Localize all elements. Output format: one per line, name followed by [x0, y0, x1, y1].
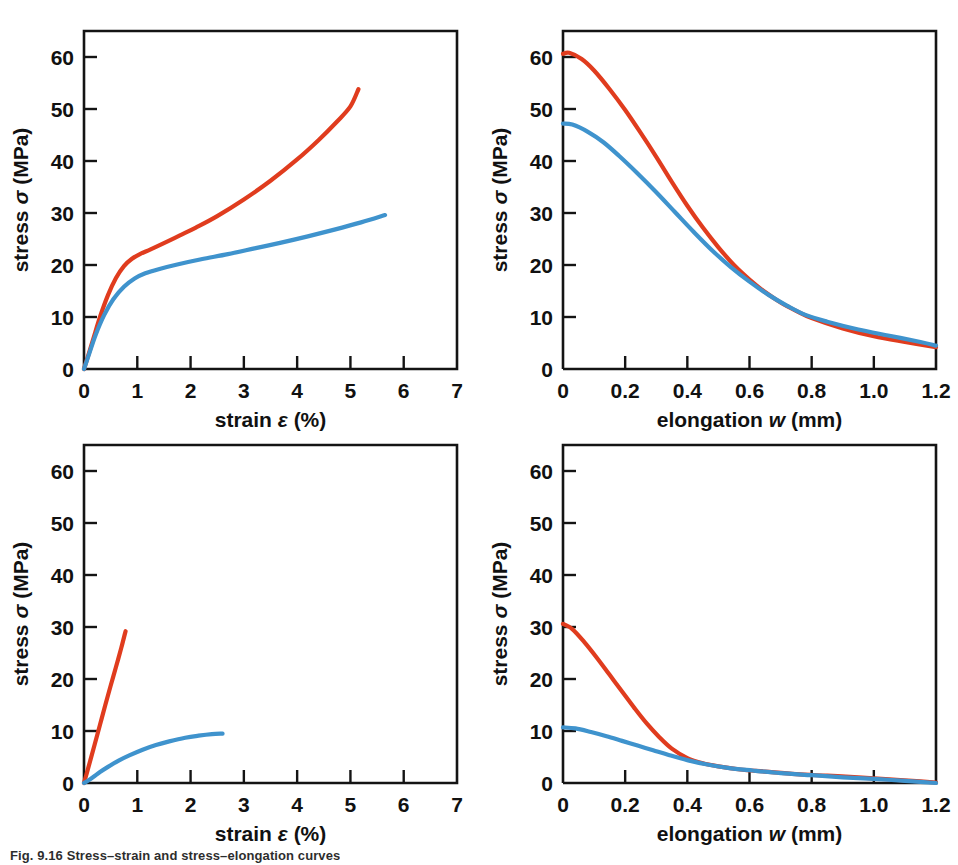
y-tick-label: 60: [530, 46, 553, 69]
x-tick-label: 0.2: [611, 793, 640, 816]
y-axis-label: stress σ (MPa): [488, 542, 511, 687]
x-tick-label: 1: [131, 793, 143, 816]
y-tick-label: 60: [530, 460, 553, 483]
y-tick-label: 20: [530, 254, 553, 277]
y-tick-label: 30: [530, 616, 553, 639]
x-tick-label: 5: [345, 793, 357, 816]
x-tick-label: 0: [78, 379, 90, 402]
y-tick-label: 10: [51, 720, 74, 743]
y-tick-label: 50: [530, 98, 553, 121]
y-tick-label: 10: [530, 720, 553, 743]
plot-top-right: 010203040506000.20.40.60.81.01.2elongati…: [479, 0, 958, 432]
y-tick-label: 0: [541, 358, 553, 381]
y-tick-label: 30: [51, 202, 74, 225]
x-tick-label: 0: [557, 379, 569, 402]
y-tick-label: 50: [530, 512, 553, 535]
series-curve-blue: [84, 215, 385, 369]
x-axis-label: elongation w (mm): [657, 822, 843, 845]
series-curve-red: [563, 624, 936, 783]
y-tick-label: 0: [62, 358, 74, 381]
plot-bottom-right: 010203040506000.20.40.60.81.01.2elongati…: [479, 414, 958, 846]
x-tick-label: 7: [451, 379, 463, 402]
y-tick-label: 10: [51, 306, 74, 329]
y-tick-label: 20: [530, 668, 553, 691]
plot-bottom-left: 010203040506001234567strain ε (%)stress …: [0, 414, 479, 846]
x-tick-label: 3: [238, 793, 250, 816]
x-tick-label: 0.6: [735, 379, 764, 402]
plot-frame: [84, 31, 457, 369]
plot-top-left: 010203040506001234567strain ε (%)stress …: [0, 0, 479, 432]
x-tick-label: 0.8: [797, 379, 827, 402]
x-tick-label: 3: [238, 379, 250, 402]
x-tick-label: 2: [185, 793, 197, 816]
x-tick-label: 1: [131, 379, 143, 402]
x-tick-label: 1.2: [921, 379, 950, 402]
x-tick-label: 7: [451, 793, 463, 816]
series-curve-red: [84, 89, 358, 369]
x-tick-label: 1.2: [921, 793, 950, 816]
x-tick-label: 1.0: [859, 793, 888, 816]
x-tick-label: 0: [78, 793, 90, 816]
y-tick-label: 50: [51, 98, 74, 121]
y-tick-label: 10: [530, 306, 553, 329]
panel-bottom-left: 010203040506001234567strain ε (%)stress …: [0, 414, 479, 846]
y-tick-label: 20: [51, 668, 74, 691]
series-curve-red: [563, 53, 936, 348]
x-tick-label: 0.4: [673, 793, 703, 816]
panel-bottom-right: 010203040506000.20.40.60.81.01.2elongati…: [479, 414, 958, 846]
y-tick-label: 40: [530, 150, 553, 173]
y-tick-label: 60: [51, 460, 74, 483]
panel-top-right: 010203040506000.20.40.60.81.01.2elongati…: [479, 0, 958, 432]
y-axis-label: stress σ (MPa): [488, 128, 511, 273]
series-curve-blue: [84, 734, 223, 783]
panel-top-left: 010203040506001234567strain ε (%)stress …: [0, 0, 479, 432]
y-tick-label: 0: [541, 772, 553, 795]
y-axis-label: stress σ (MPa): [9, 128, 32, 273]
y-tick-label: 30: [51, 616, 74, 639]
y-tick-label: 20: [51, 254, 74, 277]
y-tick-label: 30: [530, 202, 553, 225]
y-tick-label: 40: [51, 564, 74, 587]
y-tick-label: 40: [530, 564, 553, 587]
y-tick-label: 40: [51, 150, 74, 173]
x-tick-label: 6: [398, 793, 410, 816]
x-tick-label: 5: [345, 379, 357, 402]
x-tick-label: 0.4: [673, 379, 703, 402]
plot-frame: [84, 445, 457, 783]
x-tick-label: 4: [291, 793, 303, 816]
x-axis-label: strain ε (%): [215, 822, 327, 845]
y-tick-label: 50: [51, 512, 74, 535]
plot-frame: [563, 445, 936, 783]
figure-caption: Fig. 9.16 Stress–strain and stress–elong…: [10, 848, 340, 865]
figure-stress-strain-elongation: 010203040506001234567strain ε (%)stress …: [0, 0, 958, 865]
series-curve-blue: [563, 124, 936, 346]
x-tick-label: 0.2: [611, 379, 640, 402]
x-tick-label: 2: [185, 379, 197, 402]
x-tick-label: 0.8: [797, 793, 827, 816]
plot-frame: [563, 31, 936, 369]
y-tick-label: 60: [51, 46, 74, 69]
x-tick-label: 6: [398, 379, 410, 402]
x-tick-label: 0.6: [735, 793, 764, 816]
x-tick-label: 0: [557, 793, 569, 816]
y-axis-label: stress σ (MPa): [9, 542, 32, 687]
x-tick-label: 4: [291, 379, 303, 402]
y-tick-label: 0: [62, 772, 74, 795]
x-tick-label: 1.0: [859, 379, 888, 402]
